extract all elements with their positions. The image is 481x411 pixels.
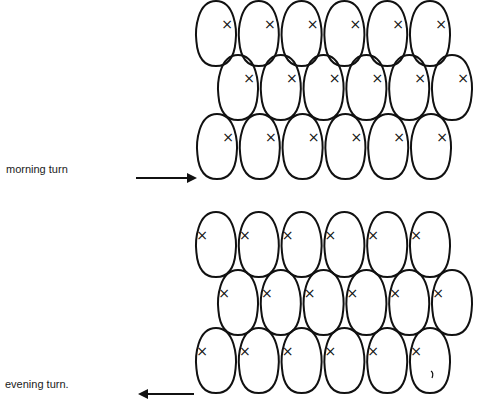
x-mark-icon: ×: [282, 227, 294, 243]
x-mark-icon: ×: [308, 129, 320, 145]
egg: [432, 55, 472, 120]
egg: [218, 270, 258, 335]
x-mark-icon: ×: [222, 129, 234, 145]
egg: [325, 114, 365, 179]
x-mark-icon: ×: [221, 16, 233, 32]
x-mark-icon: ×: [239, 227, 251, 243]
egg: [368, 114, 408, 179]
x-mark-icon: ×: [243, 70, 255, 86]
x-mark-icon: ×: [196, 227, 208, 243]
egg: [240, 114, 280, 179]
egg: [261, 270, 301, 335]
x-mark-icon: ×: [414, 70, 426, 86]
egg: [324, 328, 364, 393]
x-mark-icon: ×: [347, 285, 359, 301]
egg: [346, 55, 386, 120]
x-mark-icon: ×: [372, 70, 384, 86]
egg: [410, 328, 450, 393]
x-mark-icon: ×: [435, 16, 447, 32]
egg: [432, 270, 472, 335]
egg: [239, 212, 279, 277]
x-mark-icon: ×: [410, 343, 422, 359]
stray-mark: [431, 371, 433, 378]
x-mark-icon: ×: [325, 343, 337, 359]
x-mark-icon: ×: [261, 285, 273, 301]
x-mark-icon: ×: [351, 129, 363, 145]
egg: [261, 55, 301, 120]
x-mark-icon: ×: [392, 16, 404, 32]
egg: [389, 55, 429, 120]
x-mark-icon: ×: [350, 16, 362, 32]
egg: [411, 114, 451, 179]
egg: [410, 212, 450, 277]
x-mark-icon: ×: [367, 227, 379, 243]
x-mark-icon: ×: [307, 16, 319, 32]
egg: [324, 212, 364, 277]
x-mark-icon: ×: [265, 129, 277, 145]
x-mark-icon: ×: [282, 343, 294, 359]
egg: [346, 270, 386, 335]
egg: [304, 270, 344, 335]
x-mark-icon: ×: [329, 70, 341, 86]
x-mark-icon: ×: [457, 70, 469, 86]
egg: [283, 114, 323, 179]
x-mark-icon: ×: [432, 285, 444, 301]
x-mark-icon: ×: [286, 70, 298, 86]
x-mark-icon: ×: [304, 285, 316, 301]
egg: [304, 55, 344, 120]
egg: [282, 328, 322, 393]
x-mark-icon: ×: [367, 343, 379, 359]
egg: [197, 114, 237, 179]
egg: [282, 212, 322, 277]
egg: [389, 270, 429, 335]
egg: [196, 328, 236, 393]
x-mark-icon: ×: [393, 129, 405, 145]
egg: [196, 212, 236, 277]
egg-turning-diagram: ×××××××××××××××××× ××××××××××××××××××: [0, 0, 481, 411]
egg: [218, 55, 258, 120]
x-mark-icon: ×: [196, 343, 208, 359]
egg: [239, 328, 279, 393]
egg: [367, 328, 407, 393]
egg: [367, 212, 407, 277]
x-mark-icon: ×: [264, 16, 276, 32]
morning-egg-group: ××××××××××××××××××: [196, 1, 472, 179]
x-mark-icon: ×: [218, 285, 230, 301]
x-mark-icon: ×: [410, 227, 422, 243]
x-mark-icon: ×: [325, 227, 337, 243]
evening-egg-group: ××××××××××××××××××: [196, 212, 472, 393]
x-mark-icon: ×: [389, 285, 401, 301]
x-mark-icon: ×: [436, 129, 448, 145]
x-mark-icon: ×: [239, 343, 251, 359]
